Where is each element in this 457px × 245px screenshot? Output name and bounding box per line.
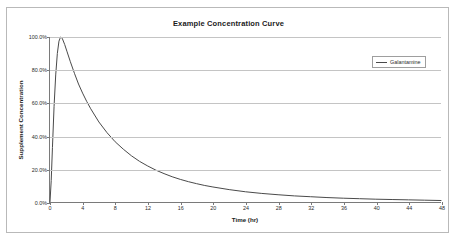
- y-axis-tick-mark: [47, 37, 50, 38]
- chart-page-frame: Example Concentration Curve 0.0%20.0%40.…: [6, 7, 449, 233]
- x-axis-tick-label: 44: [406, 205, 412, 211]
- x-axis-tick-label: 12: [145, 205, 151, 211]
- x-axis-tick-label: 40: [374, 205, 380, 211]
- legend-line-swatch-icon: [376, 62, 387, 63]
- y-axis-title: Supplement Concentration: [17, 80, 24, 159]
- y-axis-tick-mark: [47, 70, 50, 71]
- y-axis-tick-label: 100.0%: [29, 34, 47, 40]
- x-axis-title: Time (hr): [49, 216, 441, 223]
- x-axis-tick-label: 48: [439, 205, 445, 211]
- y-axis-tick-label: 60.0%: [32, 100, 47, 106]
- legend-item-label: Galantamine: [390, 59, 421, 65]
- y-axis-tick-label: 80.0%: [32, 67, 47, 73]
- x-axis-tick-label: 20: [210, 205, 216, 211]
- x-axis-tick-label: 28: [276, 205, 282, 211]
- y-axis-tick-label: 0.0%: [35, 200, 47, 206]
- gridline-horizontal: [50, 103, 441, 104]
- gridline-horizontal: [50, 170, 441, 171]
- y-axis-tick-label: 40.0%: [32, 134, 47, 140]
- chart-title: Example Concentration Curve: [7, 19, 450, 28]
- chart-legend: Galantamine: [372, 56, 426, 68]
- y-axis-tick-label: 20.0%: [32, 167, 47, 173]
- x-axis-tick-label: 4: [81, 205, 84, 211]
- y-axis-tick-mark: [47, 103, 50, 104]
- y-axis-tick-mark: [47, 137, 50, 138]
- gridline-horizontal: [50, 37, 441, 38]
- x-axis-tick-label: 32: [308, 205, 314, 211]
- x-axis-tick-label: 0: [49, 205, 52, 211]
- gridline-horizontal: [50, 70, 441, 71]
- x-axis-tick-label: 16: [178, 205, 184, 211]
- x-axis-tick-label: 36: [341, 205, 347, 211]
- y-axis-tick-mark: [47, 170, 50, 171]
- x-axis-tick-label: 8: [114, 205, 117, 211]
- gridline-horizontal: [50, 137, 441, 138]
- x-axis-tick-label: 24: [243, 205, 249, 211]
